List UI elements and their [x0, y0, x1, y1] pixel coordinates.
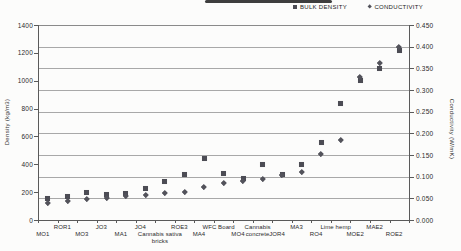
- right-axis-tick-label: 0.200: [416, 130, 450, 137]
- right-axis-tick: [410, 25, 414, 26]
- left-axis-tick-label: 0: [3, 217, 33, 224]
- x-category-label: bricks: [128, 238, 192, 244]
- right-axis-tick: [410, 220, 414, 221]
- right-axis-tick-label: 0.350: [416, 65, 450, 72]
- right-axis-line: [409, 25, 410, 221]
- gridline: [38, 155, 409, 156]
- bulk-density-point: [319, 140, 324, 145]
- scan-artifact-smudge: [205, 0, 332, 3]
- legend-item-bulk-density: BULK DENSITY: [293, 4, 347, 10]
- left-axis-tick: [34, 81, 38, 82]
- right-axis-tick-label: 0.450: [416, 22, 450, 29]
- conductivity-point: [182, 189, 187, 194]
- left-axis-tick-label: 200: [3, 189, 33, 196]
- x-axis-tick: [390, 220, 391, 223]
- scatter-chart-figure: BULK DENSITY CONDUCTIVITY Density (kg/m3…: [0, 0, 461, 251]
- x-category-label: MAE2: [343, 224, 407, 230]
- left-axis-line: [38, 25, 39, 220]
- right-axis-tick-label: 0.050: [416, 195, 450, 202]
- gridline: [38, 90, 409, 91]
- left-axis-tick-label: 1200: [3, 49, 33, 56]
- legend-label: CONDUCTIVITY: [374, 4, 423, 10]
- legend-label: BULK DENSITY: [300, 4, 347, 10]
- conductivity-point: [84, 196, 89, 201]
- x-axis-tick: [233, 220, 234, 223]
- diamond-marker-icon: [367, 5, 372, 10]
- conductivity-point: [162, 191, 167, 196]
- left-axis-tick-label: 1000: [3, 77, 33, 84]
- x-axis-tick: [116, 220, 117, 223]
- x-axis-tick: [58, 220, 59, 223]
- left-axis-tick: [34, 109, 38, 110]
- left-axis-tick: [34, 136, 38, 137]
- x-axis-tick: [155, 220, 156, 223]
- right-axis-tick-label: 0.400: [416, 43, 450, 50]
- right-axis-tick: [410, 133, 414, 134]
- x-axis-tick: [97, 220, 98, 223]
- gridline: [38, 133, 409, 134]
- x-axis-tick: [350, 220, 351, 223]
- x-axis-tick: [136, 220, 137, 223]
- x-axis-tick: [77, 220, 78, 223]
- conductivity-point: [299, 169, 304, 174]
- gridline: [38, 112, 409, 113]
- x-axis-tick: [253, 220, 254, 223]
- left-axis-tick: [34, 192, 38, 193]
- bulk-density-point: [143, 186, 148, 191]
- left-axis-tick: [34, 164, 38, 165]
- right-axis-tick: [410, 112, 414, 113]
- conductivity-point: [65, 198, 70, 203]
- right-axis-tick-label: 0.250: [416, 108, 450, 115]
- left-axis-tick-label: 600: [3, 133, 33, 140]
- conductivity-point: [45, 200, 50, 205]
- gridline: [38, 68, 409, 69]
- legend-item-conductivity: CONDUCTIVITY: [368, 4, 423, 10]
- conductivity-point: [221, 180, 226, 185]
- bulk-density-point: [377, 66, 382, 71]
- right-axis-tick: [410, 68, 414, 69]
- gridline: [38, 198, 409, 199]
- x-axis-tick: [175, 220, 176, 223]
- bulk-density-point: [260, 162, 265, 167]
- bulk-density-point: [338, 101, 343, 106]
- bulk-density-point: [84, 190, 89, 195]
- plot-top-border: [38, 25, 409, 26]
- x-axis-tick: [292, 220, 293, 223]
- x-axis-line: [38, 220, 410, 221]
- bulk-density-point: [162, 179, 167, 184]
- left-axis-tick-label: 800: [3, 105, 33, 112]
- bulk-density-point: [182, 172, 187, 177]
- gridline: [38, 47, 409, 48]
- bulk-density-point: [202, 156, 207, 161]
- bulk-density-point: [221, 171, 226, 176]
- conductivity-point: [338, 137, 343, 142]
- x-axis-tick: [409, 220, 410, 223]
- x-axis-tick: [370, 220, 371, 223]
- right-axis-tick: [410, 177, 414, 178]
- gridline: [38, 177, 409, 178]
- conductivity-point: [201, 184, 206, 189]
- x-axis-tick: [38, 220, 39, 223]
- left-axis-tick: [34, 25, 38, 26]
- x-axis-tick: [214, 220, 215, 223]
- x-axis-tick: [272, 220, 273, 223]
- x-axis-tick: [331, 220, 332, 223]
- x-axis-tick: [311, 220, 312, 223]
- x-axis-tick: [194, 220, 195, 223]
- left-axis-tick-label: 1400: [3, 22, 33, 29]
- conductivity-point: [143, 192, 148, 197]
- right-axis-tick-label: 0.000: [416, 217, 450, 224]
- right-axis-tick: [410, 90, 414, 91]
- right-axis-tick: [410, 198, 414, 199]
- right-axis-tick-label: 0.300: [416, 87, 450, 94]
- right-axis-tick-label: 0.100: [416, 173, 450, 180]
- right-axis-tick: [410, 47, 414, 48]
- bulk-density-point: [299, 162, 304, 167]
- left-axis-tick-label: 400: [3, 161, 33, 168]
- x-category-label: ROE2: [362, 231, 426, 237]
- right-axis-tick-label: 0.150: [416, 152, 450, 159]
- left-axis-tick: [34, 53, 38, 54]
- left-axis-title: Density (kg/m3): [4, 80, 10, 164]
- right-axis-tick: [410, 155, 414, 156]
- square-marker-icon: [293, 5, 297, 9]
